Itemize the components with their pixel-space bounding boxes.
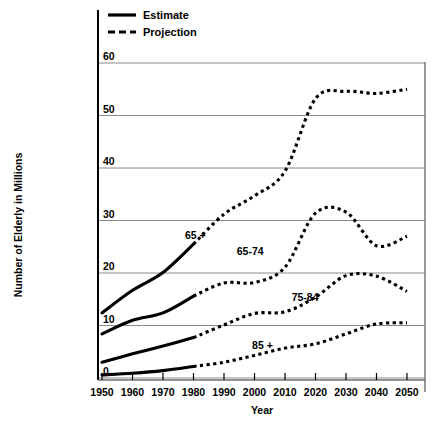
x-tick-2000: 2000: [243, 386, 267, 398]
chart-background: [0, 0, 443, 424]
x-tick-1960: 1960: [121, 386, 145, 398]
y-tick-40: 40: [103, 155, 115, 167]
series-annotation-75-84: 75-84: [292, 291, 319, 303]
x-tick-1980: 1980: [182, 386, 206, 398]
y-tick-20: 20: [103, 260, 115, 272]
x-tick-2020: 2020: [304, 386, 328, 398]
series-annotation-65: 65 +: [185, 229, 206, 241]
x-tick-2030: 2030: [334, 386, 358, 398]
chart-canvas: Estimate Projection 0102030405060 195019…: [0, 0, 443, 424]
x-tick-1970: 1970: [151, 386, 175, 398]
elderly-population-chart: Estimate Projection 0102030405060 195019…: [0, 0, 443, 424]
x-tick-2040: 2040: [365, 386, 389, 398]
y-tick-50: 50: [103, 103, 115, 115]
y-tick-30: 30: [103, 208, 115, 220]
x-tick-1950: 1950: [90, 386, 114, 398]
legend-projection-label: Projection: [143, 26, 197, 38]
y-tick-10: 10: [103, 313, 115, 325]
x-tick-2010: 2010: [273, 386, 297, 398]
series-annotation-65-74: 65-74: [237, 245, 264, 257]
y-axis-title: Number of Elderly in Millions: [12, 153, 24, 298]
x-tick-2050: 2050: [395, 386, 419, 398]
x-tick-1990: 1990: [212, 386, 236, 398]
series-annotation-85: 85 +: [252, 339, 273, 351]
x-axis-tick-labels: 1950196019701980199020002010202020302040…: [90, 386, 419, 398]
legend-estimate-label: Estimate: [143, 9, 189, 21]
x-axis-title: Year: [251, 404, 273, 416]
y-tick-60: 60: [103, 50, 115, 62]
